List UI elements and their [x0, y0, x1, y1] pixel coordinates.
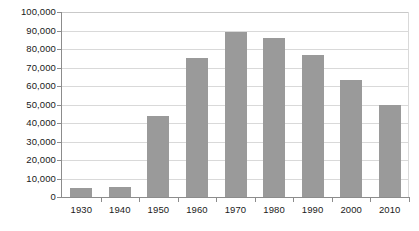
x-axis-tick-label: 1930: [62, 204, 101, 216]
y-axis-tick-label: 60,000: [0, 81, 56, 91]
y-axis-tick: [57, 12, 62, 13]
bar: [379, 105, 401, 198]
x-axis-tick: [101, 198, 102, 202]
x-axis-tick: [216, 198, 217, 202]
bar: [263, 38, 285, 197]
y-axis-tick-label: 10,000: [0, 174, 56, 184]
bar: [186, 58, 208, 197]
x-axis-tick: [370, 198, 371, 202]
y-axis-tick: [57, 68, 62, 69]
y-axis-tick-label: 80,000: [0, 44, 56, 54]
y-axis-tick: [57, 160, 62, 161]
y-axis-tick-label: 20,000: [0, 155, 56, 165]
y-axis-tick-label: 100,000: [0, 7, 56, 17]
y-axis-tick: [57, 142, 62, 143]
x-axis-tick: [293, 198, 294, 202]
bar: [70, 188, 92, 197]
plot-area: [62, 12, 409, 197]
x-axis-tick-label: 1980: [255, 204, 294, 216]
bar: [225, 32, 247, 197]
y-axis-tick: [57, 105, 62, 106]
x-axis-tick: [178, 198, 179, 202]
y-axis-tick: [57, 31, 62, 32]
y-axis-tick-label: 0: [0, 192, 56, 202]
y-axis-tick-label: 70,000: [0, 63, 56, 73]
x-axis-tick-label: 1960: [178, 204, 217, 216]
y-axis-tick: [57, 123, 62, 124]
x-axis-tick-label: 2010: [370, 204, 409, 216]
x-axis-tick-label: 1940: [101, 204, 140, 216]
y-axis-tick: [57, 49, 62, 50]
y-axis-tick-label: 50,000: [0, 100, 56, 110]
x-axis-tick-label: 2000: [332, 204, 371, 216]
x-axis-tick-label: 1990: [293, 204, 332, 216]
x-axis-tick: [409, 198, 410, 202]
bar-series: [62, 12, 409, 197]
y-axis-tick-label: 40,000: [0, 118, 56, 128]
y-axis-tick: [57, 179, 62, 180]
y-axis-tick-label: 30,000: [0, 137, 56, 147]
bar: [147, 116, 169, 197]
x-axis-tick: [332, 198, 333, 202]
bar: [109, 187, 131, 197]
x-axis-line: [61, 197, 410, 198]
x-axis-tick: [255, 198, 256, 202]
y-axis-tick: [57, 86, 62, 87]
x-axis-tick-label: 1950: [139, 204, 178, 216]
bar: [340, 80, 362, 197]
x-axis-tick-label: 1970: [216, 204, 255, 216]
bar: [302, 55, 324, 197]
y-axis-tick: [57, 197, 62, 198]
x-axis-tick: [139, 198, 140, 202]
y-axis-labels: 010,00020,00030,00040,00050,00060,00070,…: [0, 0, 56, 231]
bar-chart: 010,00020,00030,00040,00050,00060,00070,…: [0, 0, 419, 231]
y-axis-tick-label: 90,000: [0, 26, 56, 36]
